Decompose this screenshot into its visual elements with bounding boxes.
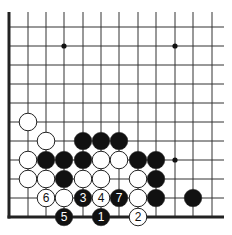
white-stone — [74, 170, 92, 188]
go-board: 6347512 — [0, 0, 232, 235]
white-stone — [110, 151, 128, 169]
black-stone — [74, 132, 92, 150]
black-stone — [147, 189, 165, 207]
black-stone: 3 — [74, 189, 92, 207]
white-stone — [37, 132, 55, 150]
star-point-icon — [172, 43, 177, 48]
white-stone: 6 — [37, 189, 55, 207]
move-number-label: 7 — [116, 191, 123, 205]
move-number-label: 5 — [61, 210, 68, 224]
black-stone — [129, 151, 147, 169]
white-stone — [55, 189, 73, 207]
white-stone — [19, 170, 37, 188]
black-stone — [147, 170, 165, 188]
black-stone: 1 — [92, 208, 110, 226]
black-stone — [55, 170, 73, 188]
black-stone: 5 — [55, 208, 73, 226]
black-stone — [184, 189, 202, 207]
move-number-label: 4 — [98, 191, 105, 205]
move-number-label: 1 — [98, 210, 105, 224]
white-stone — [92, 170, 110, 188]
star-point-icon — [61, 43, 66, 48]
black-stone — [92, 132, 110, 150]
black-stone — [110, 132, 128, 150]
white-stone: 4 — [92, 189, 110, 207]
black-stone: 7 — [110, 189, 128, 207]
white-stone: 2 — [129, 208, 147, 226]
white-stone — [37, 170, 55, 188]
white-stone — [19, 113, 37, 131]
stones: 6347512 — [19, 113, 202, 226]
black-stone — [55, 151, 73, 169]
star-point-icon — [172, 157, 177, 162]
white-stone — [19, 151, 37, 169]
white-stone — [129, 170, 147, 188]
black-stone — [37, 151, 55, 169]
board-edges — [8, 12, 225, 219]
move-number-label: 3 — [80, 191, 87, 205]
black-stone — [74, 151, 92, 169]
black-stone — [147, 151, 165, 169]
move-number-label: 2 — [135, 210, 142, 224]
white-stone — [129, 189, 147, 207]
white-stone — [92, 151, 110, 169]
move-number-label: 6 — [43, 191, 50, 205]
